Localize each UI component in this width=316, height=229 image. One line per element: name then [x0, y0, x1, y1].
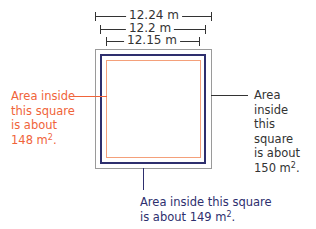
superscript: 2 [227, 210, 232, 219]
dimension-label: 12.15 m [124, 33, 180, 47]
label-line-2: is about 149 m2. [140, 210, 272, 225]
dimension-tick-right [205, 25, 206, 34]
label-inner-square-area: Area inside this square is about 148 m2. [11, 89, 75, 147]
label-tail: . [53, 133, 57, 147]
dimension-tick-right [199, 37, 200, 46]
dimension-tick-left [95, 12, 96, 21]
dimension-tick-left [100, 25, 101, 34]
dimension-tick-right [211, 12, 212, 21]
label-text: Area inside this square is about 148 m [11, 89, 75, 147]
inner-square [106, 60, 201, 158]
dimension-tick-left [106, 37, 107, 46]
dimension-label: 12.24 m [126, 8, 182, 22]
label-outer-square-area: Area inside this square is about 150 m2. [254, 88, 316, 175]
label-text: is about 149 m [140, 210, 227, 224]
leader-line-right [211, 95, 248, 96]
superscript: 2 [291, 161, 296, 170]
superscript: 2 [48, 133, 53, 142]
leader-line-left [70, 96, 107, 97]
leader-line-bottom [143, 168, 144, 190]
label-tail: . [232, 210, 236, 224]
label-tail: . [296, 161, 300, 175]
label-middle-square-area: Area inside this square is about 149 m2. [140, 195, 272, 224]
label-line-1: Area inside this square [140, 195, 272, 210]
